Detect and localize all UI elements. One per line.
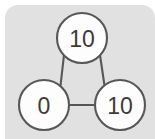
node-label-top: 10 [69,26,95,52]
node-label-bottom-left: 0 [38,93,51,119]
edge-top-to-bottom-left [60,55,64,90]
graph-diagram: 10 0 10 [0,0,155,139]
screenshot-canvas: 10 0 10 [0,0,155,139]
graph-node-top[interactable]: 10 [57,13,107,63]
graph-node-bottom-right[interactable]: 10 [95,80,145,130]
node-label-bottom-right: 10 [107,93,133,119]
graph-node-bottom-left[interactable]: 0 [19,80,69,130]
edge-top-to-bottom-right [100,55,105,89]
